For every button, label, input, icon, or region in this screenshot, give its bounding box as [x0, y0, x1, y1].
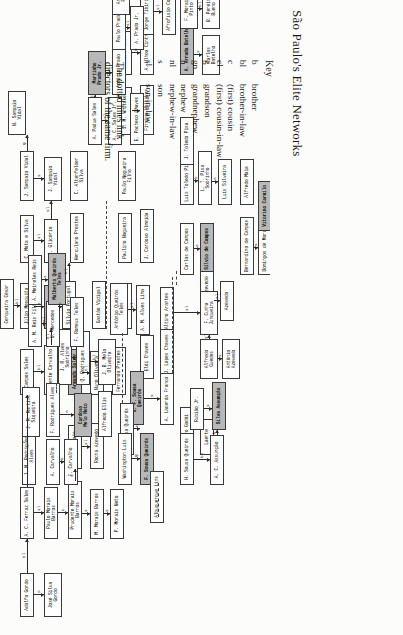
relation-label: bl — [91, 355, 96, 360]
person-node[interactable]: Malberto Queirós Teles — [48, 253, 66, 305]
arrowhead — [59, 305, 62, 309]
person-node[interactable]: Washington Luís — [118, 433, 132, 485]
person-node[interactable]: Antônio Azevedo — [222, 339, 240, 379]
arrowhead — [127, 26, 130, 30]
person-node[interactable]: M. Morais Barros — [90, 489, 104, 539]
key-entry: c(first) cousin — [226, 60, 236, 310]
person-node[interactable]: F. Romeus Teles — [70, 297, 84, 347]
arrowhead — [41, 239, 44, 243]
person-node[interactable]: A. Carvalho — [46, 439, 60, 485]
key-abbr: gn — [191, 60, 201, 84]
same-firm-dotted-link — [56, 383, 57, 393]
relation-label: n — [64, 410, 69, 413]
person-node[interactable]: Armando Prado — [112, 0, 130, 15]
key-abbr: n — [179, 60, 189, 84]
arrowhead — [87, 445, 90, 449]
person-node[interactable]: José Silva Gordo — [44, 573, 62, 617]
arrowhead — [199, 7, 202, 11]
arrowhead — [65, 511, 68, 515]
person-node[interactable]: A. C. Assunção — [210, 435, 224, 485]
arrowhead — [25, 395, 29, 398]
person-node[interactable]: Afrofísio Coelho — [162, 0, 176, 35]
relation-label: sl — [36, 234, 41, 239]
key-definition: brother-in-law — [238, 84, 248, 310]
key-entry: blbrother-in-law — [238, 60, 248, 310]
relation-label: sl — [36, 506, 41, 511]
person-node[interactable]: Herculano Prestes — [70, 213, 84, 263]
person-node[interactable]: A. Meireles Reis — [28, 255, 42, 305]
key-entry: gngrandnephew — [191, 60, 201, 310]
page-title: São Paulo's Elite Networks — [289, 10, 305, 157]
arrowhead — [95, 360, 98, 364]
arrowhead — [41, 305, 44, 309]
arrowhead — [67, 263, 71, 266]
person-node[interactable]: Paulino Nogueira — [118, 213, 132, 263]
person-node[interactable]: Albuquerque Lins — [150, 471, 164, 523]
person-node[interactable]: A. Prado Jr. — [130, 6, 144, 50]
key-entry: cl(first) cousin-in-law — [214, 60, 224, 310]
arrowhead — [17, 304, 20, 308]
arrowhead — [41, 511, 44, 515]
arrowhead — [137, 457, 140, 461]
relation-label: c — [21, 440, 26, 443]
person-node[interactable]: Alfredo Guedes — [200, 339, 218, 379]
arrowhead — [209, 407, 212, 411]
relation-label: bl — [199, 453, 204, 458]
arrowhead — [137, 427, 140, 431]
arrowhead — [25, 539, 29, 542]
relation-label: sl — [45, 207, 50, 212]
person-node[interactable]: Adolfo Gordo — [20, 573, 34, 617]
key-entry-list: bbrotherblbrother-in-lawc(first) cousinc… — [144, 60, 259, 310]
person-node[interactable]: U. Mercedes — [46, 301, 60, 347]
person-node[interactable]: P. Morais Neto — [110, 489, 124, 539]
person-node[interactable]: Paulo Morais Barros — [44, 487, 58, 539]
key-abbr: s — [155, 60, 165, 84]
key-entry: slson-in-law — [144, 60, 154, 310]
key-abbr: cl — [214, 60, 224, 84]
same-firm-dotted-link — [122, 333, 123, 403]
arrowhead — [159, 10, 162, 14]
person-node[interactable]: J. B. Melo Oliveira — [98, 339, 116, 385]
person-node[interactable]: A. C. Ferraz Sales — [20, 487, 34, 539]
arrowhead — [41, 370, 44, 374]
relation-label: g — [133, 454, 138, 457]
person-node[interactable]: Gastão Vidigal — [92, 281, 106, 329]
same-firm-dotted-link — [158, 483, 159, 517]
person-node[interactable]: Prudente Morais Barros — [68, 481, 82, 539]
person-node[interactable]: Silva Assunção — [212, 382, 226, 430]
arrowhead — [137, 51, 140, 55]
key-abbr: nl — [167, 60, 177, 84]
person-node[interactable]: F. Morais Pinto — [180, 0, 198, 29]
key-abbr: b — [249, 60, 259, 84]
key-definition: (first) cousin — [226, 84, 236, 310]
person-node[interactable]: B. Pereira Bueno — [202, 0, 220, 29]
key-definition: nephew-in-law — [167, 84, 177, 310]
arrowhead — [197, 311, 200, 315]
person-node[interactable]: Cardoso Melo Neto — [74, 393, 92, 437]
person-node[interactable]: N. Sampaio Vidal — [8, 91, 26, 135]
person-node[interactable]: Cerqueira César — [0, 279, 14, 329]
arrowhead — [41, 593, 44, 597]
key-definition: (first) cousin-in-law — [214, 84, 224, 310]
relation-label: sl — [83, 440, 88, 445]
person-node[interactable]: A. Lacerda Franco — [160, 373, 174, 425]
person-node[interactable]: F. Rodrigues Alves — [46, 383, 60, 437]
person-node[interactable]: Rubião Jr. — [190, 388, 204, 430]
person-node[interactable]: Alfredo Ellis — [98, 391, 112, 437]
dotted-line-note: The dotted lines link directors of the s… — [102, 62, 126, 162]
relation-label: bl — [21, 553, 26, 558]
key-entry: bbrother — [249, 60, 259, 310]
relation-label: b — [211, 432, 216, 435]
relation-label: s — [195, 50, 200, 53]
arrowhead — [219, 357, 222, 361]
arrowhead — [87, 512, 90, 516]
arrowhead — [207, 458, 210, 462]
person-node[interactable]: H. Sousa Queirós — [180, 433, 194, 485]
key-entry: nnephew — [179, 60, 189, 310]
key-abbr: sl — [144, 60, 154, 84]
relation-label: sl — [129, 303, 134, 308]
arrowhead — [43, 322, 46, 326]
arrowhead — [133, 308, 136, 312]
key-definition: grandnephew — [191, 84, 201, 310]
person-node[interactable]: Antônio Queirós Teles — [110, 283, 128, 335]
